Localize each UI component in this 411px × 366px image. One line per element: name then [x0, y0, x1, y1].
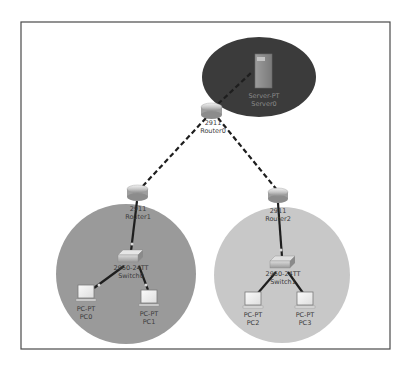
router1-name-label: Router1: [125, 213, 151, 221]
pc0-model-label: PC-PT: [77, 305, 96, 313]
router-icon: [201, 103, 222, 119]
router-icon: [127, 185, 148, 201]
pc0-name-label: PC0: [80, 313, 93, 321]
server0-model-label: Server-PT: [248, 92, 279, 100]
server-drive-bay: [257, 57, 265, 61]
pc3-name-label: PC3: [299, 319, 312, 327]
router2-name-label: Router2: [265, 215, 291, 223]
router-icon: [268, 188, 288, 203]
switch1-name-label: Switch1: [270, 278, 296, 286]
pc2-name-label: PC2: [247, 319, 260, 327]
network-diagram-canvas: Server-PT Server0 2911 Router0 2911 Rout…: [0, 0, 411, 366]
router1-model-label: 2911: [130, 205, 147, 213]
switch-icon: [118, 250, 143, 262]
switch0-model-label: 2960-24TT: [114, 264, 149, 272]
switch1-model-label: 2960-24TT: [266, 270, 301, 278]
switch-icon: [270, 256, 295, 268]
router0-model-label: 2911: [205, 119, 222, 127]
pc1-name-label: PC1: [143, 318, 156, 326]
router0-name-label: Router0: [200, 127, 226, 135]
pc1-model-label: PC-PT: [140, 310, 159, 318]
pc2-model-label: PC-PT: [244, 311, 263, 319]
pc3-model-label: PC-PT: [296, 311, 315, 319]
server0-name-label: Server0: [251, 100, 276, 108]
switch0-name-label: Switch0: [118, 272, 144, 280]
router2-model-label: 2911: [270, 207, 287, 215]
